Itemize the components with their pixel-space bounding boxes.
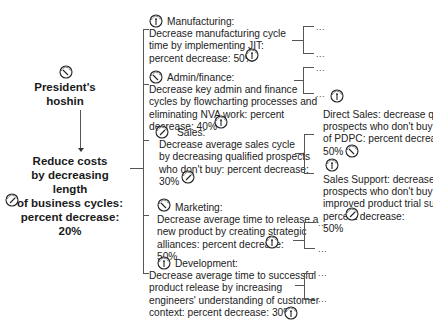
gauge-icon xyxy=(265,235,279,249)
dept-line: new product by creating strategic xyxy=(157,226,318,238)
dept-name: Marketing: xyxy=(157,202,318,214)
bracket xyxy=(303,67,304,93)
goal-line: by decreasing length xyxy=(15,168,125,196)
sub-direct-sales: Direct Sales: decrease qualifi prospects… xyxy=(323,109,433,158)
connector xyxy=(295,153,304,154)
ellipsis: ... xyxy=(318,244,327,254)
presidents-hoshin-title: President's hoshin xyxy=(20,80,110,108)
bracket xyxy=(304,134,305,173)
dept-line: by decreasing qualified prospects xyxy=(159,151,310,163)
goal-line: 20% xyxy=(15,224,125,238)
bracket xyxy=(303,26,304,53)
dept-name: Development: xyxy=(149,258,319,270)
gauge-icon xyxy=(345,144,359,158)
sub-line: prospects who don't buy by xyxy=(323,186,433,198)
bracket xyxy=(303,53,314,54)
connector xyxy=(294,80,303,81)
bracket xyxy=(303,26,314,27)
hoshin-tree-diagram: President's hoshin Reduce costs by decre… xyxy=(0,0,442,328)
dept-line: cycles by flowcharting processes and xyxy=(149,96,317,108)
connector xyxy=(295,285,304,286)
gauge-icon xyxy=(330,89,344,103)
dept-line: Decrease manufacturing cycle xyxy=(149,28,286,40)
gauge-icon xyxy=(325,158,339,172)
ellipsis: ... xyxy=(316,22,325,32)
sub-line: percent decrease: xyxy=(323,211,433,223)
bracket xyxy=(304,222,305,248)
connector xyxy=(293,240,304,241)
gauge-icon xyxy=(284,306,298,320)
gauge-icon xyxy=(245,48,259,62)
bracket xyxy=(304,273,305,299)
bracket xyxy=(304,134,314,135)
sub-line: 50% xyxy=(323,223,433,235)
connector xyxy=(292,40,303,41)
ellipsis: ... xyxy=(316,49,325,59)
connector xyxy=(130,168,143,169)
ellipsis: ... xyxy=(318,294,327,304)
gauge-icon xyxy=(5,193,19,207)
sub-line: Direct Sales: decrease qualifi xyxy=(323,109,433,121)
title-line: hoshin xyxy=(20,94,110,108)
dept-line: Decrease average time to release a xyxy=(157,214,318,226)
dept-line: Decrease key admin and finance xyxy=(149,84,317,96)
ellipsis: ... xyxy=(316,63,325,73)
dept-name: Manufacturing: xyxy=(149,16,286,28)
sub-line: Sales Support: decrease qua xyxy=(323,174,433,186)
ellipsis: ... xyxy=(316,89,325,99)
branch-sales xyxy=(143,140,149,141)
sub-line: prospects who don't buy by u xyxy=(323,121,433,133)
bracket xyxy=(304,173,314,174)
sub-line: 50% xyxy=(323,146,433,158)
title-line: President's xyxy=(20,80,110,94)
gauge-icon xyxy=(59,65,73,79)
dept-line: engineers' understanding of customer xyxy=(149,295,319,307)
gauge-icon xyxy=(345,207,359,221)
dept-manufacturing: Manufacturing: Decrease manufacturing cy… xyxy=(149,16,286,65)
bracket xyxy=(304,222,315,223)
dept-name: Sales: xyxy=(159,127,310,139)
bracket xyxy=(304,248,315,249)
dept-marketing: Marketing: Decrease average time to rele… xyxy=(157,202,318,263)
sub-line: improved product trial suppor xyxy=(323,198,433,210)
dept-line: product release by increasing xyxy=(149,282,319,294)
ellipsis: ... xyxy=(318,268,327,278)
arrow-head-icon xyxy=(78,148,84,152)
dept-name: Admin/finance: xyxy=(149,72,317,84)
goal-line: percent decrease: xyxy=(15,210,125,224)
trunk-line xyxy=(143,29,144,274)
arrow-connector xyxy=(80,110,81,150)
bracket xyxy=(303,93,314,94)
bracket xyxy=(303,67,314,68)
dept-line: Decrease average time to successful xyxy=(149,270,319,282)
dept-line: Decrease average sales cycle xyxy=(159,139,310,151)
dept-line: percent decrease: 50% xyxy=(149,53,286,65)
bracket xyxy=(304,273,315,274)
goal-line: of business cycles: xyxy=(15,196,125,210)
dept-line: time by implementing JIT: xyxy=(149,40,286,52)
sub-sales-support: Sales Support: decrease qua prospects wh… xyxy=(323,174,433,235)
dept-line: eliminating NVA work: percent xyxy=(149,109,317,121)
root-goal-text: Reduce costs by decreasing length of bus… xyxy=(15,154,125,238)
bracket xyxy=(304,299,315,300)
goal-line: Reduce costs xyxy=(15,154,125,168)
gauge-icon xyxy=(181,170,195,184)
branch-marketing xyxy=(143,215,149,216)
ellipsis: ... xyxy=(318,218,327,228)
dept-admin-finance: Admin/finance: Decrease key admin and fi… xyxy=(149,72,317,133)
sub-line: of PDPC: percent decrease: xyxy=(323,133,433,145)
